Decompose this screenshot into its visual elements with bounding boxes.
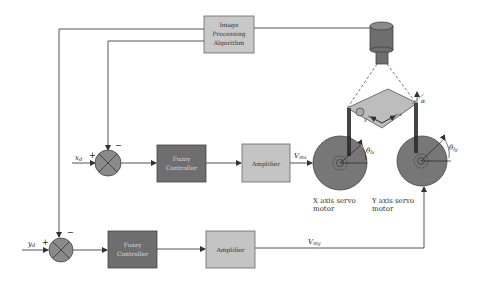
xd-label: xd <box>75 154 82 162</box>
junction-y-plus: + <box>42 238 49 247</box>
y-servo-motor <box>397 136 451 186</box>
theta-ly-label: θly <box>449 144 458 153</box>
x-motor-caption-line2: motor <box>313 205 335 213</box>
y-channel: yd + − Fuzzy Controller Amplifier Vmy <box>22 136 458 268</box>
ball-icon <box>356 108 364 116</box>
vmy-label: Vmy <box>308 238 321 247</box>
image-processing-line2: Processing <box>212 30 245 38</box>
image-processing-line3: Algorithm <box>213 39 245 47</box>
y-motor-caption-line2: motor <box>372 205 394 213</box>
svg-text:Fuzzy: Fuzzy <box>124 241 142 249</box>
x-servo-motor <box>313 136 367 190</box>
image-processing-block: Image Processing Algorithm <box>204 16 254 53</box>
x-channel: xd + − Fuzzy Controller Amplifier Vmx <box>72 136 375 213</box>
x-motor-caption-line1: X axis servo <box>313 197 356 205</box>
platform-y-label: y <box>363 116 367 123</box>
junction-y-minus: − <box>67 228 74 237</box>
junction-x-minus: − <box>115 141 122 150</box>
junction-x-plus: + <box>89 151 96 160</box>
image-processing-line1: Image <box>219 21 238 29</box>
vmx-label: Vmx <box>294 152 307 160</box>
summing-junction-y <box>49 238 73 262</box>
svg-text:Controller: Controller <box>117 250 148 257</box>
fuzzy-controller-y-block: Fuzzy Controller <box>108 231 157 268</box>
platform-x-label: x <box>399 111 402 117</box>
svg-text:Amplifier: Amplifier <box>215 246 244 254</box>
svg-text:Amplifier: Amplifier <box>251 160 280 168</box>
amplifier-y-block: Amplifier <box>206 231 255 268</box>
y-motor-caption-line1: Y axis servo <box>371 197 414 205</box>
theta-lx-label: θlx <box>366 147 375 155</box>
camera-icon <box>370 22 393 64</box>
svg-text:Fuzzy: Fuzzy <box>173 155 191 163</box>
fuzzy-controller-x-block: Fuzzy Controller <box>157 145 206 182</box>
control-system-diagram: Image Processing Algorithm y x α xd <box>0 0 477 281</box>
summing-junction-x <box>95 150 121 176</box>
yd-label: yd <box>27 240 35 248</box>
svg-text:Controller: Controller <box>166 164 197 171</box>
alpha-label: α <box>421 97 425 104</box>
amplifier-x-block: Amplifier <box>242 144 290 182</box>
